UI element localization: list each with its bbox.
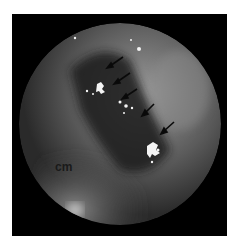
- cm-label: cm: [55, 160, 72, 174]
- endoscope-field: [19, 23, 221, 240]
- endoscopic-view: [0, 0, 237, 247]
